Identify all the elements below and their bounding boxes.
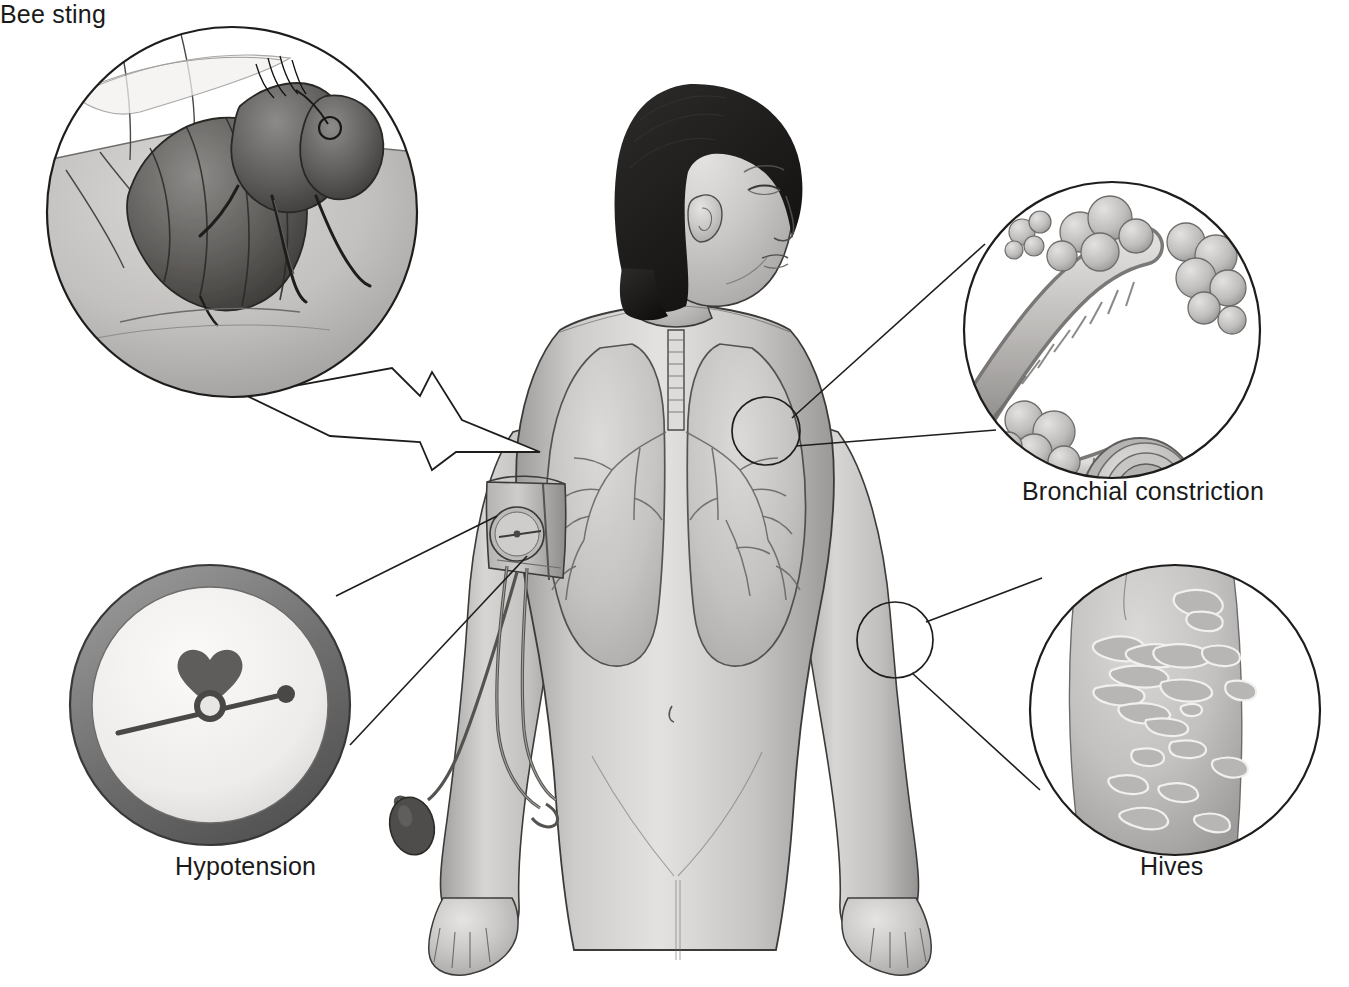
- illustration-canvas: Bee sting Bronchial constriction Hypoten…: [0, 0, 1349, 987]
- hives-caption: Hives: [1140, 852, 1204, 881]
- head: [615, 84, 803, 320]
- hypotension-caption: Hypotension: [175, 852, 316, 881]
- bee-head: [300, 95, 383, 199]
- callout-hypotension: [70, 565, 350, 845]
- callout-bee-sting: [47, 27, 540, 470]
- inflation-bulb: [384, 793, 439, 859]
- callout-hives: [1028, 560, 1322, 860]
- central-figure: [384, 84, 933, 975]
- bronchial-constriction-caption: Bronchial constriction: [1022, 477, 1264, 506]
- bee-sting-caption: Bee sting: [0, 0, 106, 29]
- trachea: [668, 330, 684, 430]
- callout-bronchial-constriction: [960, 182, 1260, 570]
